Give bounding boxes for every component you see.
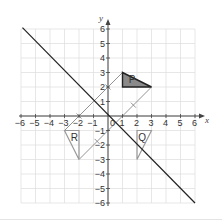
y-tick-label: −6	[95, 198, 105, 208]
x-tick-label: −5	[29, 118, 39, 128]
y-tick-label: −3	[95, 155, 105, 165]
x-axis-label: x	[204, 115, 209, 125]
y-tick-label: 5	[100, 39, 105, 49]
y-tick-label: 1	[100, 97, 105, 107]
bottom-divider	[0, 219, 222, 220]
y-tick-label: −1	[95, 126, 105, 136]
x-tick-label: 4	[163, 118, 168, 128]
coordinate-diagram: PQR −6−5−4−3−2−10123456654321−1−2−3−4−5−…	[0, 0, 222, 223]
y-tick-label: −2	[95, 140, 105, 150]
x-tick-label: 6	[192, 118, 197, 128]
x-tick-label: −6	[15, 118, 25, 128]
shape-label-p: P	[129, 74, 136, 85]
tick-labels: −6−5−4−3−2−10123456654321−1−2−3−4−5−6xy	[15, 13, 209, 208]
x-tick-label: 1	[120, 118, 125, 128]
x-tick-label: −2	[73, 118, 83, 128]
x-tick-label: 5	[178, 118, 183, 128]
y-tick-label: −4	[95, 169, 105, 179]
y-tick-label: 3	[100, 68, 105, 78]
y-tick-label: 2	[100, 82, 105, 92]
y-axis-label: y	[98, 13, 103, 23]
y-axis-arrow-icon	[106, 19, 111, 25]
x-tick-label: −4	[44, 118, 54, 128]
x-tick-label: 3	[149, 118, 154, 128]
x-tick-label: 2	[134, 118, 139, 128]
shape-label-q: Q	[138, 132, 146, 143]
y-tick-label: 6	[100, 24, 105, 34]
x-tick-label: −3	[58, 118, 68, 128]
axes	[19, 19, 205, 206]
shape-label-r: R	[71, 132, 78, 143]
mirror-line	[22, 28, 195, 203]
y-tick-label: −5	[95, 184, 105, 194]
mirror-line	[22, 28, 195, 203]
x-tick-label: 0	[110, 118, 115, 128]
y-tick-label: 4	[100, 53, 105, 63]
